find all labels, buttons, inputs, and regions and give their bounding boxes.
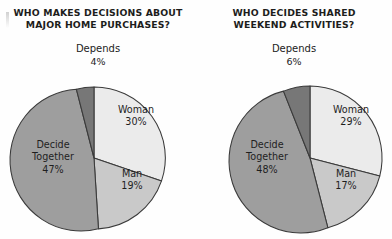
chart-panel-weekend-activities: WHO DECIDES SHARED WEEKEND ACTIVITIES? D…: [196, 0, 392, 239]
pie-label-man-value: 17%: [322, 180, 370, 192]
pie-label-woman-name: Woman: [118, 104, 154, 115]
pie-label-man: Man 19%: [108, 168, 156, 193]
pie-label-decide-together-name-2: Together: [236, 151, 298, 163]
pie-label-decide-together-value: 48%: [236, 164, 298, 176]
pie-label-man: Man 17%: [322, 168, 370, 193]
pie-label-decide-together: Decide Together 47%: [22, 139, 84, 176]
chart-panel-home-purchases: WHO MAKES DECISIONS ABOUT MAJOR HOME PUR…: [0, 0, 196, 239]
pie-label-man-name: Man: [122, 168, 142, 179]
pie-label-decide-together-name-1: Decide: [36, 139, 69, 150]
pie-label-decide-together-name-2: Together: [22, 151, 84, 163]
pie-label-man-name: Man: [336, 168, 356, 179]
pie-chart-home-purchases: [0, 0, 196, 239]
pie-label-woman-value: 30%: [108, 116, 164, 128]
pie-label-decide-together-value: 47%: [22, 164, 84, 176]
pie-label-woman: Woman 30%: [108, 104, 164, 129]
pie-label-decide-together: Decide Together 48%: [236, 139, 298, 176]
figure-canvas: WHO MAKES DECISIONS ABOUT MAJOR HOME PUR…: [0, 0, 392, 239]
pie-label-woman-value: 29%: [322, 116, 380, 128]
pie-label-woman: Woman 29%: [322, 104, 380, 129]
pie-label-decide-together-name-1: Decide: [250, 139, 283, 150]
pie-svg-home-purchases: [0, 0, 196, 239]
pie-label-woman-name: Woman: [333, 104, 369, 115]
pie-label-man-value: 19%: [108, 180, 156, 192]
